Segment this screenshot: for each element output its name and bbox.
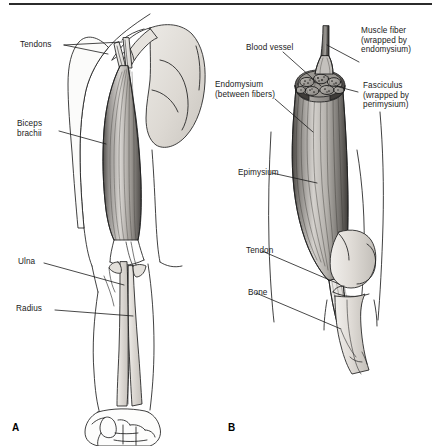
label-fasciculus: Fasciculus (wrapped by perimysium) xyxy=(363,81,409,110)
label-bone: Bone xyxy=(248,288,267,298)
label-tendon: Tendon xyxy=(246,246,273,256)
label-muscle-fiber: Muscle fiber (wrapped by endomysium) xyxy=(361,26,411,55)
label-ulna: Ulna xyxy=(18,257,35,267)
label-radius: Radius xyxy=(16,304,42,314)
panel-letter-b: B xyxy=(228,422,235,433)
panel-a-illustration xyxy=(0,0,217,446)
label-endomysium: Endomysium (between fibers) xyxy=(215,80,275,99)
label-blood-vessel: Blood vessel xyxy=(246,43,293,53)
label-tendons: Tendons xyxy=(20,40,52,50)
panel-letter-a: A xyxy=(12,422,19,433)
label-epimysium: Epimysium xyxy=(238,168,279,178)
label-biceps-brachii: Biceps brachii xyxy=(17,119,42,138)
panel-b-illustration xyxy=(217,0,434,446)
figure-page: Tendons Biceps brachii Ulna Radius A Blo… xyxy=(0,0,434,446)
